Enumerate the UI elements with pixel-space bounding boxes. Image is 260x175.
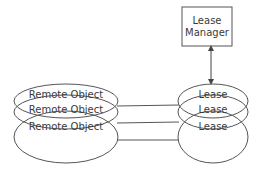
connector-line	[117, 122, 179, 123]
remote-object-label: Remote Object	[14, 104, 118, 116]
lease-label: Lease	[178, 104, 248, 116]
lease-label: Lease	[178, 89, 248, 101]
lease-manager-line1: Lease	[182, 15, 232, 27]
remote-object-label: Remote Object	[14, 121, 118, 133]
lease-label: Lease	[178, 121, 248, 133]
remote-object-label: Remote Object	[14, 89, 118, 101]
remote-object-ellipse	[14, 111, 118, 163]
lease-manager-label: Lease Manager	[182, 15, 232, 39]
lease-ellipse	[178, 111, 248, 163]
connector-line	[117, 105, 179, 106]
lease-manager-line2: Manager	[182, 27, 232, 39]
